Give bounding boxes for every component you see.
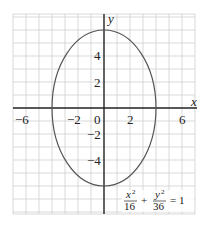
x-tick-label: −2 xyxy=(67,112,81,127)
x-tick-label: 2 xyxy=(127,112,134,127)
equation-annotation: x 2 16 + y 2 36 = 1 xyxy=(122,188,194,212)
x-tick-label: 0 xyxy=(94,112,101,127)
eq-den-36: 36 xyxy=(153,200,165,212)
chart-canvas: x y −6 −2 0 2 6 4 2 −2 −4 x 2 16 + y 2 3… xyxy=(0,0,205,227)
eq-den-16: 16 xyxy=(124,200,136,212)
eq-y: y xyxy=(154,188,160,200)
eq-plus: + xyxy=(141,194,147,206)
y-axis-label: y xyxy=(106,11,114,26)
y-tick-label: −4 xyxy=(87,153,101,168)
y-tick-label: −2 xyxy=(87,127,101,142)
eq-y-exp: 2 xyxy=(161,188,165,196)
x-tick-label: 6 xyxy=(179,112,186,127)
eq-x: x xyxy=(125,188,131,200)
x-axis-label: x xyxy=(190,94,197,109)
y-tick-label: 4 xyxy=(94,48,101,63)
x-tick-label: −6 xyxy=(15,112,29,127)
y-tick-label: 2 xyxy=(94,75,101,90)
eq-equals: = 1 xyxy=(170,194,184,206)
eq-x-exp: 2 xyxy=(132,188,136,196)
